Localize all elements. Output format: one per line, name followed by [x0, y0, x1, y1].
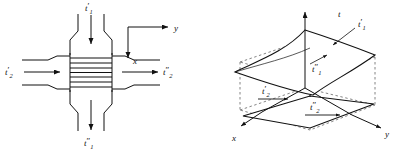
- label-right-axis-y: y: [384, 129, 389, 139]
- top-duct-left-wall: [70, 14, 78, 55]
- label-left-axis-x: x: [132, 56, 137, 66]
- label-surface-top-in: t′1: [358, 17, 366, 31]
- right-duct-bottom-wall: [112, 85, 160, 89]
- right-axis-y-line: [352, 115, 381, 128]
- leader-line-t1-prime: [333, 28, 355, 45]
- left-panel-group: t′1 t′2 t″2 t″1 y x: [5, 1, 178, 150]
- label-inlet-top: t′1: [85, 1, 93, 15]
- label-surface-bottom-in: t′2: [262, 84, 270, 98]
- label-inlet-left: t′2: [5, 65, 13, 79]
- label-right-axis-t: t: [338, 9, 341, 19]
- core-fin-plates: [70, 58, 112, 87]
- label-right-axis-x: x: [231, 133, 236, 143]
- label-outlet-right: t″2: [163, 65, 173, 79]
- left-duct-top-wall: [22, 56, 70, 60]
- bottom-duct-right-wall: [104, 90, 112, 131]
- bottom-duct-left-wall: [70, 90, 78, 131]
- right-panel-group: t t′1 t″1 t′2 t″2 x y: [231, 9, 389, 143]
- left-duct-bottom-wall: [22, 85, 70, 89]
- label-left-axis-y: y: [173, 23, 178, 33]
- figure-root: t′1 t′2 t″2 t″1 y x: [0, 0, 420, 152]
- figure-svg: t′1 t′2 t″2 t″1 y x: [0, 0, 420, 152]
- top-duct-right-wall: [104, 14, 112, 55]
- left-axes: [128, 27, 168, 58]
- label-outlet-bottom: t″1: [84, 136, 94, 150]
